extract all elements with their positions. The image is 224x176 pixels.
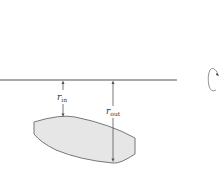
diagram-canvas: rin rout: [0, 0, 224, 176]
shaded-region: [34, 116, 135, 163]
r-in-label: rin: [57, 92, 67, 103]
r-out-label: rout: [106, 106, 121, 117]
rotation-arrow-icon: [208, 68, 219, 91]
